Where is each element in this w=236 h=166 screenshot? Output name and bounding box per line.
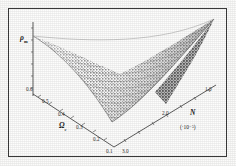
figure-3d-surface-plot: ρm Ωc N (·10⁻⁵) 0.6 0.5 0.4 0.3 0.2 0.1 … [0, 0, 236, 166]
x-tick-0: 0.6 [26, 86, 32, 92]
x-tick-3: 0.3 [76, 124, 82, 130]
y-axis-unit: (·10⁻⁵) [180, 124, 196, 130]
surface-plot-canvas [0, 0, 236, 166]
z-axis [31, 22, 33, 96]
z-axis-label: ρm [20, 33, 28, 44]
x-tick-1: 0.5 [42, 98, 48, 104]
y-tick-0: 3.0 [122, 148, 128, 154]
x-tick-5: 0.1 [106, 148, 112, 154]
x-tick-2: 0.4 [58, 111, 64, 117]
y-tick-2: 1.0 [205, 86, 211, 92]
x-tick-4: 0.2 [93, 136, 99, 142]
y-axis-label: N [190, 108, 195, 117]
x-axis-label: Ωc [59, 121, 67, 132]
y-tick-1: 2.0 [162, 110, 168, 116]
